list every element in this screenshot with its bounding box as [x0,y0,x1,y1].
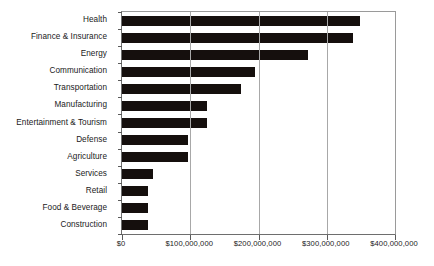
category-label: Entertainment & Tourism [16,114,107,131]
category-axis-labels: HealthFinance & InsuranceEnergyCommunica… [0,11,112,233]
bar [122,16,360,26]
value-axis-labels: $0$100,000,000$200,000,000$300,000,000$4… [0,239,434,259]
category-label: Food & Beverage [43,199,107,216]
gridline [190,12,191,234]
category-label: Health [83,11,107,28]
bar [122,118,207,128]
category-axis-tick [118,234,122,235]
category-axis-tick [118,80,122,81]
bar [122,203,148,213]
category-axis-tick [118,97,122,98]
category-axis-tick [118,200,122,201]
plot-area [121,11,396,235]
bar [122,101,207,111]
category-axis-tick [118,166,122,167]
bar [122,50,308,60]
bar [122,135,188,145]
category-label: Manufacturing [54,96,107,113]
bar-chart: HealthFinance & InsuranceEnergyCommunica… [0,0,434,266]
category-label: Defense [76,131,107,148]
value-axis-tick-label: $0 [117,239,126,248]
value-axis-tick-label: $200,000,000 [234,239,282,248]
category-label: Finance & Insurance [31,28,107,45]
bar [122,67,255,77]
bar [122,220,148,230]
value-axis-tick-label: $100,000,000 [165,239,213,248]
category-label: Services [75,165,107,182]
category-axis-tick [118,217,122,218]
bar [122,33,353,43]
category-axis-tick [118,63,122,64]
value-axis-tick-label: $300,000,000 [302,239,350,248]
category-axis-tick [118,132,122,133]
bar [122,169,153,179]
category-label: Retail [86,182,107,199]
category-label: Energy [81,45,107,62]
category-axis-tick [118,114,122,115]
bar [122,84,241,94]
category-axis-tick [118,149,122,150]
category-axis-tick [118,46,122,47]
category-label: Agriculture [67,148,107,165]
bar [122,186,148,196]
gridline [259,12,260,234]
category-axis-tick [118,12,122,13]
category-axis-tick [118,183,122,184]
value-axis-tick-label: $400,000,000 [370,239,418,248]
category-axis-tick [118,29,122,30]
bar [122,152,188,162]
category-label: Communication [49,62,107,79]
category-label: Construction [60,216,107,233]
gridline [327,12,328,234]
category-label: Transportation [54,79,107,96]
